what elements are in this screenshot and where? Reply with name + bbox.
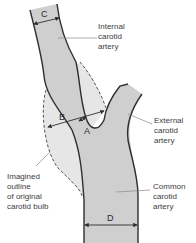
leader-external: [128, 114, 152, 124]
imagined-outline-label: Imagined outline of original carotid bul…: [7, 172, 48, 212]
measure-c-label: C: [41, 9, 48, 19]
measure-a-label: A: [84, 126, 90, 136]
measure-d-label: D: [107, 213, 114, 223]
leader-imagined: [36, 152, 50, 166]
internal-carotid-label: Internal carotid artery: [98, 22, 125, 52]
common-carotid-label: Common carotid artery: [153, 182, 185, 212]
measure-b-label: B: [59, 112, 65, 122]
external-carotid-label: External carotid artery: [154, 116, 183, 146]
carotid-diagram: C B A D Internal carotid artery External…: [0, 0, 196, 243]
